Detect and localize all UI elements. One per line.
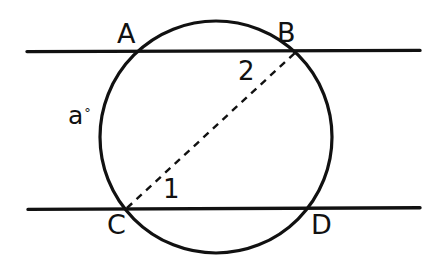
lower-parallel-line [28, 208, 420, 210]
region-label-1: 1 [163, 176, 180, 202]
point-label-a: A [117, 20, 135, 47]
point-label-c: C [107, 211, 126, 238]
dashed-chord-cb [127, 51, 297, 208]
angle-variable: a [68, 101, 83, 130]
circle-geometry-diagram: A B C D a° 1 2 [0, 0, 440, 267]
point-label-b: B [277, 19, 296, 46]
region-label-2: 2 [238, 58, 255, 84]
degree-symbol: ° [84, 105, 91, 120]
angle-label-a-degrees: a° [68, 103, 90, 128]
main-circle [100, 21, 332, 253]
point-label-d: D [311, 211, 332, 238]
geometry-canvas [0, 0, 440, 267]
upper-parallel-line [27, 50, 420, 51]
